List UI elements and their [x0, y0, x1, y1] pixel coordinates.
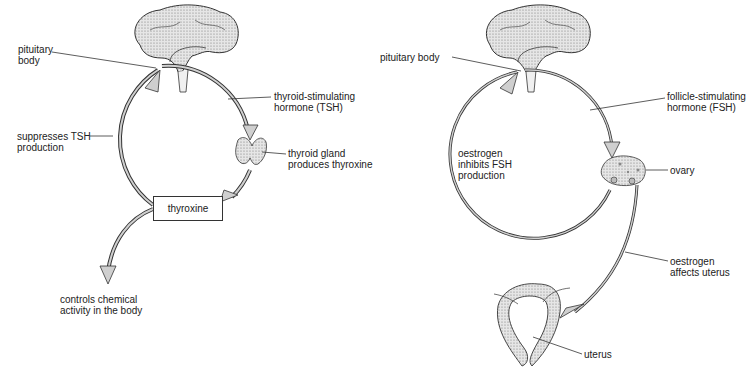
uterus-label: uterus [584, 349, 612, 360]
tsh-label: thyroid-stimulating hormone (TSH) [274, 91, 355, 113]
uterus-icon [494, 284, 570, 366]
oestrogen-inhibits-fsh-label: oestrogen inhibits FSH production [458, 148, 512, 181]
thyroxine-label: thyroxine [168, 203, 209, 214]
brain-icon-right [486, 5, 590, 92]
diagram-canvas [0, 0, 746, 383]
feedback-loop-right [450, 70, 637, 312]
controls-chemical-activity-label: controls chemical activity in the body [60, 294, 142, 316]
thyroxine-box: thyroxine [153, 196, 223, 221]
ovary-icon [601, 156, 645, 186]
arrowhead-icon [100, 266, 116, 284]
suppresses-tsh-label: suppresses TSH production [17, 131, 91, 153]
ovary-label: ovary [670, 165, 694, 176]
pituitary-body-label-left: pituitary body [18, 44, 53, 66]
brain-icon-left [135, 5, 238, 92]
arrowhead-icon [560, 304, 584, 318]
feedback-loop-left [108, 66, 250, 272]
arrowhead-icon [604, 142, 620, 158]
oestrogen-affects-uterus-label: oestrogen affects uterus [670, 256, 730, 278]
fsh-label: follicle-stimulating hormone (FSH) [667, 91, 746, 113]
pituitary-body-label-right: pituitary body [380, 52, 439, 63]
thyroid-gland-icon [236, 138, 267, 165]
thyroid-gland-label: thyroid gland produces thyroxine [288, 148, 373, 170]
